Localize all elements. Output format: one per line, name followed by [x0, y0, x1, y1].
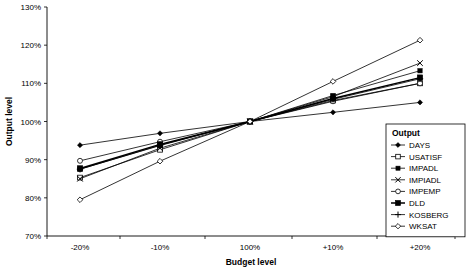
data-point-marker-open-square: [396, 154, 401, 159]
data-point-marker-filled-square: [418, 69, 422, 73]
legend-item-label: DAYS: [409, 141, 430, 150]
y-tick-label: 70%: [25, 232, 41, 241]
legend-item-label: USATISF: [409, 153, 442, 162]
series-wksat: [77, 37, 423, 202]
x-tick-label: -10%: [151, 243, 170, 252]
data-point-marker-filled-diamond: [417, 100, 422, 105]
data-point-marker-open-diamond: [417, 37, 423, 43]
x-tick-label: +10%: [323, 243, 344, 252]
x-tick-label: 100%: [240, 243, 260, 252]
legend-item-label: DLD: [409, 199, 425, 208]
legend-item-label: IMPADL: [409, 164, 439, 173]
y-tick-label: 110%: [21, 79, 41, 88]
data-point-marker-filled-diamond: [330, 110, 335, 115]
data-point-marker-filled-diamond: [77, 143, 82, 148]
x-axis-title: Budget level: [226, 257, 277, 267]
y-tick-label: 130%: [21, 3, 41, 12]
series-lines: [77, 37, 423, 202]
legend-title: Output: [392, 128, 420, 138]
series-path: [80, 83, 420, 177]
chart-legend: OutputDAYSUSATISFIMPADLIMPIADLIMPEMPDLDK…: [386, 124, 465, 237]
series-usatisf: [78, 81, 423, 180]
data-point-marker-filled-square-bold: [395, 200, 400, 205]
chart-canvas: 70%80%90%100%110%120%130% -20%-10%100%+1…: [0, 0, 469, 271]
data-point-marker-filled-square: [396, 166, 400, 170]
x-tick-label: +20%: [410, 243, 431, 252]
x-tick-label: -20%: [71, 243, 90, 252]
y-tick-label: 120%: [21, 41, 41, 50]
data-point-marker-open-diamond: [77, 197, 83, 203]
legend-item-label: KOSBERG: [409, 211, 449, 220]
legend-item-label: IMPEMP: [409, 187, 441, 196]
y-tick-label: 80%: [25, 194, 41, 203]
data-point-marker-filled-diamond: [157, 131, 162, 136]
data-point-marker-open-circle: [78, 158, 83, 163]
data-point-marker-open-diamond: [330, 79, 336, 85]
data-point-marker-open-diamond: [157, 158, 163, 164]
y-tick-label: 90%: [25, 156, 41, 165]
data-point-marker-cross-x: [417, 60, 423, 66]
legend-item-label: IMPIADL: [409, 176, 442, 185]
x-axis-ticks: -20%-10%100%+10%+20%: [47, 236, 455, 252]
legend-item-label: WKSAT: [409, 222, 437, 231]
y-axis-title: Output level: [4, 97, 14, 146]
data-point-marker-open-circle: [396, 189, 401, 194]
y-tick-label: 100%: [21, 118, 41, 127]
line-chart: 70%80%90%100%110%120%130% -20%-10%100%+1…: [0, 0, 469, 271]
y-axis-ticks: 70%80%90%100%110%120%130%: [21, 3, 47, 241]
